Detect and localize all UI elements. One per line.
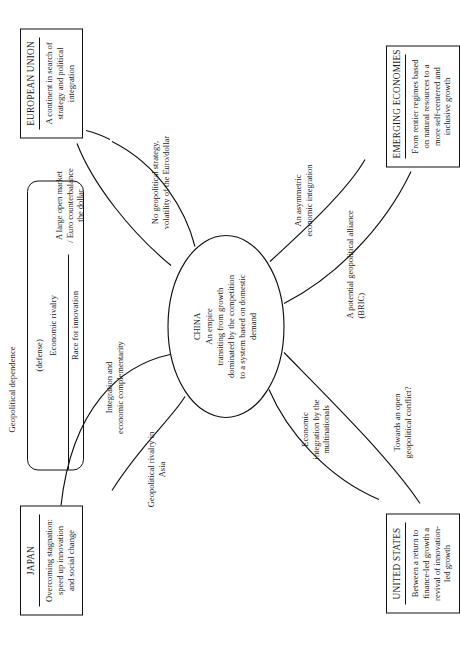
china-description: An empire transiting from growth dominat…: [204, 274, 259, 378]
european-union-title: EUROPEAN UNION: [26, 37, 40, 129]
node-china[interactable]: CHINA An empire transiting from growth d…: [168, 235, 284, 417]
edge-label-eu-strategy: No geopolitical strategy, volatility of …: [150, 112, 171, 252]
china-title: CHINA: [192, 274, 203, 378]
emerging-economies-description: From rentier regimes based on natural re…: [410, 52, 453, 160]
japan-description: Overcoming stagnation: speed up innovati…: [44, 512, 76, 608]
relations-divider: [68, 254, 69, 469]
edge-label-japan-rivalry: Geopolitical rivalry in Asia: [146, 411, 167, 527]
european-union-description: A continent in search of strategy and po…: [44, 35, 76, 131]
japan-title: JAPAN: [26, 514, 40, 606]
united-states-description: Between a return to finance-led growth a…: [410, 520, 453, 606]
china-text: CHINA An empire transiting from growth d…: [192, 258, 259, 394]
edge-label-japan-integration: Integration and economic complementarity: [104, 319, 125, 455]
edge-label-us-conflict: Towards an open geopolitical conflict?: [392, 361, 413, 483]
edge-label-us-multinationals: Economic integration by the multinationa…: [300, 374, 332, 484]
node-japan[interactable]: JAPAN Overcoming stagnation: speed up in…: [20, 505, 83, 615]
emerging-economies-title: EMERGING ECONOMIES: [392, 54, 406, 158]
united-states-title: UNITED STATES: [392, 522, 406, 604]
relations-panel-heading: Geopolitical dependence: [7, 346, 17, 432]
relations-panel-subheading: (defense): [34, 339, 44, 371]
node-emerging-economies[interactable]: EMERGING ECONOMIES From rentier regimes …: [386, 45, 460, 167]
node-european-union[interactable]: EUROPEAN UNION A continent in search of …: [20, 28, 83, 138]
edge-eu-box-stub: [86, 130, 110, 139]
edge-label-eu-market: A large open market / Euro counterbalanc…: [54, 146, 86, 264]
edge-label-emerging-asymmetric: An asymmetric economic integration: [293, 138, 314, 262]
edge-label-emerging-bric: A potential geopolitical alliance (BRIC): [345, 158, 366, 318]
node-united-states[interactable]: UNITED STATES Between a return to financ…: [386, 513, 460, 613]
